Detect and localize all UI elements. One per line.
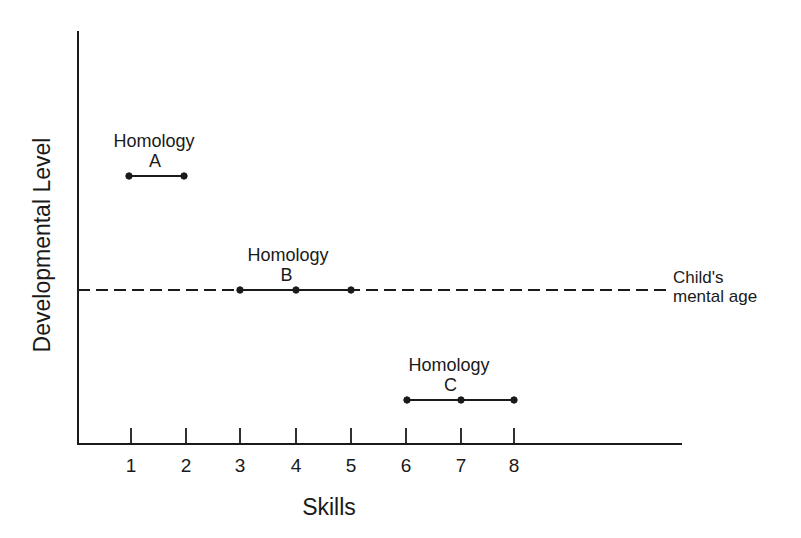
x-tick-label-5: 5 (341, 456, 361, 476)
homology-a-title: Homology (106, 131, 202, 151)
x-tick-label-8: 8 (504, 456, 524, 476)
homology-c-letter: C (404, 375, 497, 395)
x-tick-label-4: 4 (286, 456, 306, 476)
homology-c-segment (404, 397, 517, 403)
homology-a-segment (126, 173, 187, 179)
homology-b-label: Homology B (238, 245, 338, 285)
x-axis-label: Skills (302, 494, 356, 521)
x-tick-label-1: 1 (121, 456, 141, 476)
homology-b-title: Homology (238, 245, 338, 265)
mental-age-annotation-line2: mental age (673, 287, 757, 306)
homology-a-label: Homology A (106, 131, 202, 171)
y-axis-label: Developmental Level (29, 138, 56, 353)
x-tick-label-7: 7 (451, 456, 471, 476)
homology-c-label: Homology C (401, 355, 497, 395)
mental-age-annotation-line1: Child's (673, 268, 757, 287)
x-tick-label-3: 3 (230, 456, 250, 476)
homology-c-title: Homology (401, 355, 497, 375)
x-tick-label-2: 2 (176, 456, 196, 476)
homology-b-segment (237, 287, 354, 293)
mental-age-annotation: Child's mental age (673, 268, 757, 306)
x-ticks (131, 428, 514, 444)
homology-a-letter: A (108, 151, 202, 171)
x-tick-label-6: 6 (396, 456, 416, 476)
homology-b-letter: B (235, 265, 338, 285)
